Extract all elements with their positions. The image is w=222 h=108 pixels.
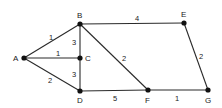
weight-label-c-d: 3 — [72, 70, 76, 79]
node-label-g: G — [205, 96, 211, 105]
weight-label-b-c: 3 — [72, 38, 76, 47]
weight-label-a-c: 1 — [56, 49, 60, 58]
weight-label-f-g: 1 — [175, 94, 179, 103]
node-d — [77, 88, 82, 93]
edge-d-f — [80, 90, 148, 91]
weight-label-e-g: 2 — [199, 52, 203, 61]
node-f — [145, 87, 150, 92]
node-label-f: F — [145, 96, 150, 105]
weight-label-a-b: 1 — [49, 33, 53, 42]
node-label-e: E — [181, 10, 186, 19]
node-e — [181, 20, 186, 25]
node-label-c: C — [85, 54, 91, 63]
weight-label-b-e: 4 — [135, 14, 139, 23]
edge-b-e — [80, 23, 184, 24]
weight-label-a-d: 2 — [48, 76, 52, 85]
node-label-d: D — [77, 96, 83, 105]
node-b — [77, 21, 82, 26]
weight-label-b-f: 2 — [122, 54, 126, 63]
weight-label-d-f: 5 — [113, 94, 117, 103]
edge-e-g — [184, 23, 208, 90]
node-c — [77, 55, 82, 60]
node-label-a: A — [13, 54, 19, 63]
node-a — [21, 55, 26, 60]
graph-diagram: A B C D E F G 1 1 2 3 3 4 2 5 2 1 — [0, 0, 222, 108]
node-label-b: B — [77, 11, 82, 20]
node-g — [205, 87, 210, 92]
